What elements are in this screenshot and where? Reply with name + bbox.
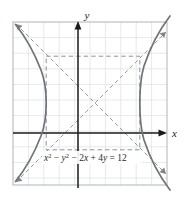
equation-label: x2 − y2 − 2x + 4y = 12 [42, 151, 142, 164]
x-axis-label: x [171, 127, 177, 139]
hyperbola-figure: y x x2 − y2 − 2x + 4y = 12 [0, 0, 192, 197]
graph-canvas: y x x2 − y2 − 2x + 4y = 12 [0, 0, 192, 197]
equation-text: x2 − y2 − 2x + 4y = 12 [43, 152, 127, 164]
y-axis-label: y [84, 9, 90, 21]
